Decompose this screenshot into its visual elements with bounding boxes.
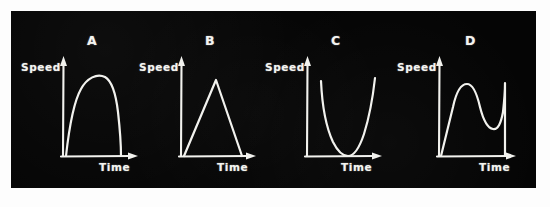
chart-a-ylabel: Speed — [21, 61, 61, 73]
chart-d-title: D — [465, 33, 476, 48]
chart-d-y-axis — [439, 63, 440, 156]
chart-d-x-axis — [437, 156, 509, 157]
chart-c-title: C — [331, 33, 341, 48]
chalkboard: Speed Time A Speed Time B — [11, 11, 536, 188]
chart-a-xlabel: Time — [99, 161, 130, 173]
chart-d-ylabel: Speed — [397, 61, 437, 73]
chart-c-y-axis-arrow — [304, 56, 311, 66]
chart-d-x-axis-arrow — [506, 153, 516, 160]
chart-a-y-axis-arrow — [60, 56, 67, 66]
chart-c-y-axis — [307, 63, 308, 156]
chart-d-xlabel: Time — [479, 161, 510, 173]
chart-a-y-axis — [63, 63, 64, 156]
chart-panel-d: Speed Time D — [391, 11, 531, 188]
chart-b-title: B — [205, 33, 216, 48]
chart-panel-a: Speed Time A — [15, 11, 145, 188]
chart-b-x-axis-arrow — [246, 153, 256, 160]
chart-b-xlabel: Time — [217, 161, 248, 173]
chart-c-ylabel: Speed — [265, 61, 305, 73]
chart-panel-b: Speed Time B — [135, 11, 265, 188]
chart-b-x-axis — [179, 156, 249, 157]
chart-c-x-axis-arrow — [372, 153, 382, 160]
chart-b-ylabel: Speed — [139, 61, 179, 73]
figure-canvas: Speed Time A Speed Time B — [0, 0, 550, 207]
chart-b-curve — [184, 80, 242, 156]
chart-a-title: A — [87, 33, 98, 48]
chart-d-curve — [441, 83, 505, 156]
chart-b-y-axis — [181, 63, 182, 156]
chart-panel-c: Speed Time C — [263, 11, 395, 188]
chart-c-svg — [263, 11, 395, 188]
chart-b-y-axis-arrow — [178, 56, 185, 66]
chart-c-curve — [321, 78, 375, 156]
chart-a-curve — [66, 76, 121, 156]
chart-c-xlabel: Time — [341, 161, 372, 173]
chart-d-y-axis-arrow — [436, 56, 443, 66]
chart-c-x-axis — [305, 156, 375, 157]
